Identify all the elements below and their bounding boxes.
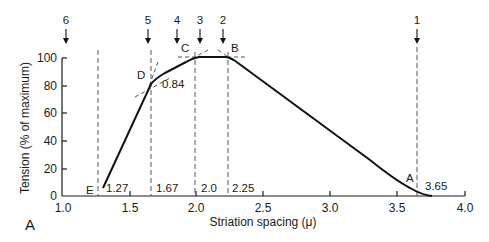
x-tick-2.5: 2.5 [255, 201, 272, 215]
axes [62, 58, 465, 196]
value-label-1.67: 1.67 [156, 182, 178, 194]
x-axis-title: Striation spacing (μ) [210, 215, 317, 229]
value-label-3.65: 3.65 [425, 180, 447, 192]
x-tick-1.5: 1.5 [122, 201, 139, 215]
svg-text:3: 3 [197, 14, 203, 26]
arrow-down-icon [63, 38, 69, 44]
length-tension-chart: 100 80 60 40 20 0 1.0 1.5 2.0 2.5 3.0 3.… [0, 0, 489, 242]
arrow-down-icon [174, 38, 180, 44]
dashed-line-labels: 1.27 1.67 2.0 2.25 3.65 0.84 [106, 78, 447, 194]
arrow-1: 1 [414, 14, 420, 44]
y-tick-60: 60 [44, 106, 58, 120]
arrow-down-icon [145, 38, 151, 44]
point-label-A: A [406, 172, 414, 184]
arrow-4: 4 [174, 14, 181, 44]
arrow-down-icon [197, 38, 203, 44]
arrow-down-icon [414, 38, 420, 44]
x-tick-1.0: 1.0 [55, 201, 72, 215]
annotation-0.84: 0.84 [162, 78, 185, 90]
x-tick-2.0: 2.0 [188, 201, 205, 215]
dashed-reference-lines [98, 47, 417, 196]
point-label-B: B [231, 42, 239, 54]
value-label-2.25: 2.25 [232, 182, 254, 194]
numbered-arrows: 1 2 3 4 5 6 [63, 14, 420, 44]
x-tick-3.0: 3.0 [322, 201, 339, 215]
svg-text:1: 1 [414, 14, 420, 26]
value-label-2.0: 2.0 [201, 182, 217, 194]
panel-label: A [25, 216, 35, 233]
point-label-D: D [137, 69, 145, 81]
svg-text:6: 6 [63, 14, 69, 26]
arrow-2: 2 [220, 14, 226, 44]
arrow-down-icon [220, 38, 226, 44]
x-tick-3.5: 3.5 [389, 201, 406, 215]
point-label-E: E [86, 184, 94, 196]
arrow-6: 6 [63, 14, 69, 44]
value-label-1.27: 1.27 [106, 182, 128, 194]
svg-text:2: 2 [220, 14, 226, 26]
point-label-C: C [181, 42, 189, 54]
svg-text:5: 5 [145, 14, 151, 26]
y-tick-100: 100 [37, 51, 57, 65]
svg-text:4: 4 [174, 14, 181, 26]
x-tick-labels: 1.0 1.5 2.0 2.5 3.0 3.5 4.0 [55, 201, 474, 215]
y-tick-80: 80 [44, 79, 58, 93]
y-tick-20: 20 [44, 162, 58, 176]
y-tick-40: 40 [44, 134, 58, 148]
y-tick-labels: 100 80 60 40 20 0 [37, 51, 57, 203]
x-tick-4.0: 4.0 [457, 201, 474, 215]
y-axis-title: Tension (% of maximum) [18, 62, 32, 194]
arrow-5: 5 [145, 14, 151, 44]
arrow-3: 3 [197, 14, 203, 44]
